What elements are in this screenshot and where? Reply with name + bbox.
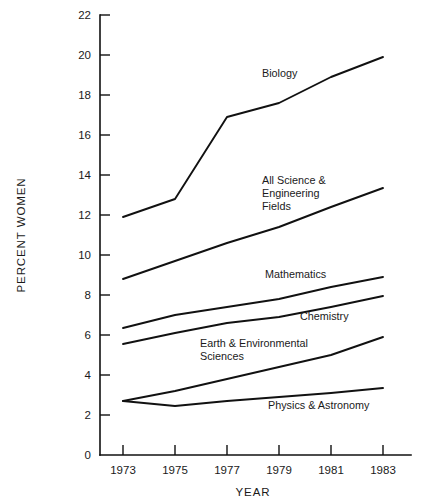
y-tick-label-16: 16 xyxy=(78,129,91,141)
series-label-biology: Biology xyxy=(262,67,298,79)
y-tick-label-14: 14 xyxy=(78,169,91,181)
series-label-mathematics: Mathematics xyxy=(265,268,327,280)
x-tick-label-1977: 1977 xyxy=(214,464,240,476)
x-axis-title: YEAR xyxy=(236,486,271,498)
y-tick-label-22: 22 xyxy=(78,9,91,21)
y-tick-label-10: 10 xyxy=(78,249,91,261)
series-line-all-science-engineering-fields xyxy=(123,188,383,279)
y-tick-label-0: 0 xyxy=(85,449,91,461)
series-label-all-science-line2: Engineering xyxy=(262,187,320,199)
y-axis-tick-labels: 22 20 18 16 14 12 10 8 6 4 2 0 xyxy=(78,9,91,461)
series-label-physics-astronomy: Physics & Astronomy xyxy=(268,399,370,411)
chart-plot-area: 22 20 18 16 14 12 10 8 6 4 2 0 1973 1975… xyxy=(0,0,425,501)
x-tick-label-1975: 1975 xyxy=(162,464,188,476)
x-tick-label-1973: 1973 xyxy=(110,464,136,476)
x-axis-tick-labels: 1973 1975 1977 1979 1981 1983 xyxy=(110,464,396,476)
y-tick-label-4: 4 xyxy=(85,369,92,381)
series-lines xyxy=(123,57,383,406)
y-tick-label-20: 20 xyxy=(78,49,91,61)
y-tick-label-18: 18 xyxy=(78,89,91,101)
series-label-all-science-line3: Fields xyxy=(262,200,291,212)
y-tick-label-8: 8 xyxy=(85,289,91,301)
series-label-chemistry: Chemistry xyxy=(300,310,349,322)
y-tick-label-6: 6 xyxy=(85,329,91,341)
x-axis-ticks xyxy=(123,445,383,455)
y-tick-label-12: 12 xyxy=(78,209,91,221)
x-tick-label-1983: 1983 xyxy=(370,464,396,476)
y-axis-title: PERCENT WOMEN xyxy=(15,178,27,293)
x-tick-label-1981: 1981 xyxy=(318,464,344,476)
series-label-all-science-line1: All Science & xyxy=(262,174,326,186)
x-tick-label-1979: 1979 xyxy=(266,464,292,476)
series-label-earth-env-line2: Sciences xyxy=(200,350,244,362)
series-line-biology xyxy=(123,57,383,217)
series-label-earth-env-line1: Earth & Environmental xyxy=(200,337,308,349)
line-chart: 22 20 18 16 14 12 10 8 6 4 2 0 1973 1975… xyxy=(0,0,425,501)
y-tick-label-2: 2 xyxy=(85,409,91,421)
y-axis-ticks xyxy=(100,15,110,415)
